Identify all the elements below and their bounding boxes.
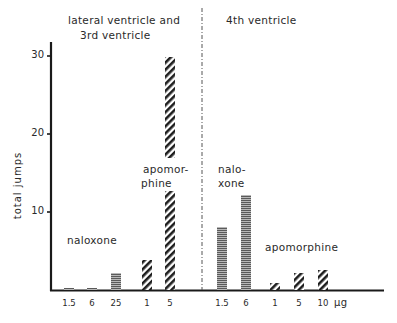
bar-left-apomorphine-1: [142, 260, 152, 290]
x-tick-label: 1: [263, 298, 287, 308]
y-tick-label: 30: [20, 49, 44, 60]
bar-right-naloxone-1.5: [217, 227, 227, 290]
x-unit-label: µg: [334, 297, 347, 308]
x-tick-label: 1.5: [57, 298, 81, 308]
annotation-right-naloxone-1: nalo-: [218, 163, 246, 175]
panel-title-left-line2: 3rd ventricle: [80, 29, 151, 41]
bar-right-apomorphine-1: [270, 283, 280, 290]
annotation-left-apomorphine-2: phine: [141, 177, 172, 189]
bar-right-naloxone-6: [241, 195, 251, 290]
x-tick-label: 1.5: [210, 298, 234, 308]
x-tick-label: 5: [287, 298, 311, 308]
x-tick-label: 10: [311, 298, 335, 308]
x-tick-label: 5: [158, 298, 182, 308]
bar-left-naloxone-6: [87, 288, 97, 290]
x-tick-label: 6: [234, 298, 258, 308]
y-tick-label: 20: [20, 127, 44, 138]
annotation-left-apomorphine-1: apomor-: [143, 163, 189, 175]
y-tick-label: 10: [20, 205, 44, 216]
chart-canvas: [0, 0, 397, 323]
bar-right-apomorphine-10: [318, 270, 328, 290]
bar-left-apomorphine-5-lower: [165, 191, 175, 290]
x-tick-label: 6: [80, 298, 104, 308]
bar-left-naloxone-1.5: [64, 288, 74, 290]
x-tick-label: 1: [135, 298, 159, 308]
bar-left-apomorphine-5-upper: [165, 57, 175, 158]
panel-title-left-line1: lateral ventricle and: [68, 14, 180, 26]
annotation-left-naloxone: naloxone: [67, 234, 117, 246]
panel-title-right: 4th ventricle: [226, 14, 297, 26]
annotation-right-naloxone-2: xone: [218, 177, 245, 189]
bar-left-naloxone-25: [111, 273, 121, 290]
bar-right-apomorphine-5: [294, 273, 304, 290]
x-tick-label: 25: [104, 298, 128, 308]
annotation-right-apomorphine: apomorphine: [265, 241, 338, 253]
